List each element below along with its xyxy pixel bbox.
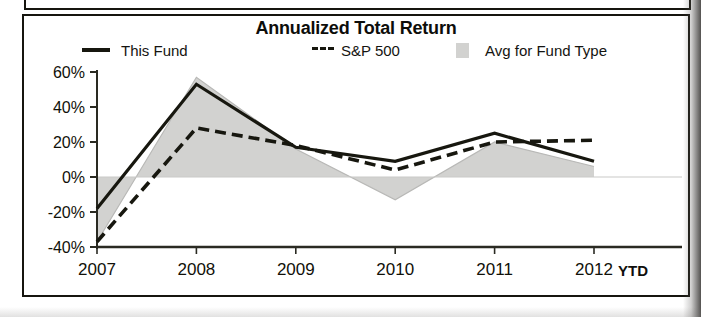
chart-panel: Annualized Total Return This Fund S&P 50… (22, 14, 690, 297)
x-axis-tick-label: 2011 (476, 260, 513, 279)
y-axis-tick-label: 0% (62, 169, 85, 186)
y-axis-tick-label: -20% (48, 204, 85, 221)
plot-area: 60%40%20%0%-20%-40%200720082009201020112… (24, 16, 692, 299)
cropped-panel-above (24, 0, 691, 10)
y-axis-tick-label: 20% (53, 134, 85, 151)
y-axis-tick-label: 60% (53, 64, 85, 81)
x-axis-tick-label: 2007 (78, 260, 116, 279)
y-axis-tick-label: -40% (48, 239, 85, 256)
x-axis-tick-label: 2009 (277, 260, 315, 279)
y-axis-tick-label: 40% (53, 99, 85, 116)
ytd-axis-label: YTD (618, 262, 648, 279)
series-area-avg-for-fund-type (97, 77, 594, 242)
scan-edge-shadow-bottom (0, 307, 701, 317)
x-axis-tick-label: 2008 (177, 260, 215, 279)
x-axis-tick-label: 2010 (376, 260, 414, 279)
x-axis-tick-label: 2012 (575, 260, 613, 279)
chart-svg: 60%40%20%0%-20%-40%200720082009201020112… (24, 16, 692, 299)
scanned-page: Annualized Total Return This Fund S&P 50… (0, 0, 701, 317)
